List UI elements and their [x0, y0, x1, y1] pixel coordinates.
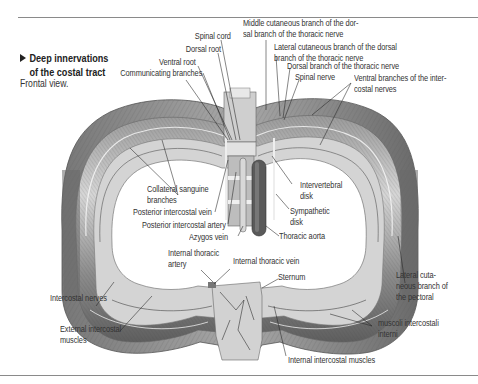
label-sympathetic-2: disk — [290, 217, 303, 227]
label-spinal-cord: Spinal cord — [195, 31, 231, 41]
sternum — [208, 282, 262, 360]
label-intercostal-nerves: Intercostal nerves — [50, 293, 107, 303]
label-middle-cutaneous-1: Middle cutaneous branch of the dor- — [243, 18, 358, 28]
label-ventral-root: Ventral root — [159, 57, 196, 67]
label-internal-intercostal-muscles: Internal intercostal muscles — [288, 355, 375, 365]
label-sternum: Sternum — [278, 272, 305, 282]
label-collateral-2: branches — [147, 195, 177, 205]
label-sympathetic-1: Sympathetic — [290, 206, 330, 216]
label-external-intercostal-2: muscles — [60, 335, 87, 345]
label-intervertebral-2: disk — [300, 191, 313, 201]
label-posterior-intercostal-vein: Posterior intercostal vein — [133, 207, 212, 217]
label-thoracic-aorta: Thoracic aorta — [279, 231, 325, 241]
label-collateral-1: Collateral sanguine — [147, 184, 209, 194]
label-intervertebral-1: Intervertebral — [300, 180, 342, 190]
label-internal-thoracic-vein: Internal thoracic vein — [233, 256, 299, 266]
label-lateral-pectoral-1: Lateral cuta- — [396, 270, 436, 280]
label-spinal-nerve: Spinal nerve — [295, 72, 335, 82]
label-internal-thoracic-artery-2: artery — [168, 259, 186, 269]
label-dorsal-branch: Dorsal branch of the thoracic nerve — [287, 61, 399, 71]
label-internal-thoracic-artery-1: Internal thoracic — [168, 248, 219, 258]
label-ventral-branches-2: costal nerves — [354, 84, 396, 94]
label-azygos-vein: Azygos vein — [189, 232, 228, 242]
label-middle-cutaneous-2: sal branch of the thoracic nerve — [243, 29, 343, 39]
label-communicating-branches: Communicating branches — [120, 68, 202, 78]
label-lateral-pectoral-3: the pectoral — [396, 292, 434, 302]
label-muscoli-intercostali-2: interni — [378, 329, 398, 339]
label-posterior-intercostal-artery: Posterior intercostal artery — [142, 220, 226, 230]
label-muscoli-intercostali-1: muscoli intercostali — [378, 318, 439, 328]
label-ventral-branches-1: Ventral branches of the inter- — [354, 73, 446, 83]
label-lateral-pectoral-2: neous branch of — [396, 281, 448, 291]
label-dorsal-root: Dorsal root — [186, 44, 221, 54]
label-lateral-cutaneous-dorsal-1: Lateral cutaneous branch of the dorsal — [274, 42, 397, 52]
label-external-intercostal-1: External intercostal — [60, 324, 121, 334]
